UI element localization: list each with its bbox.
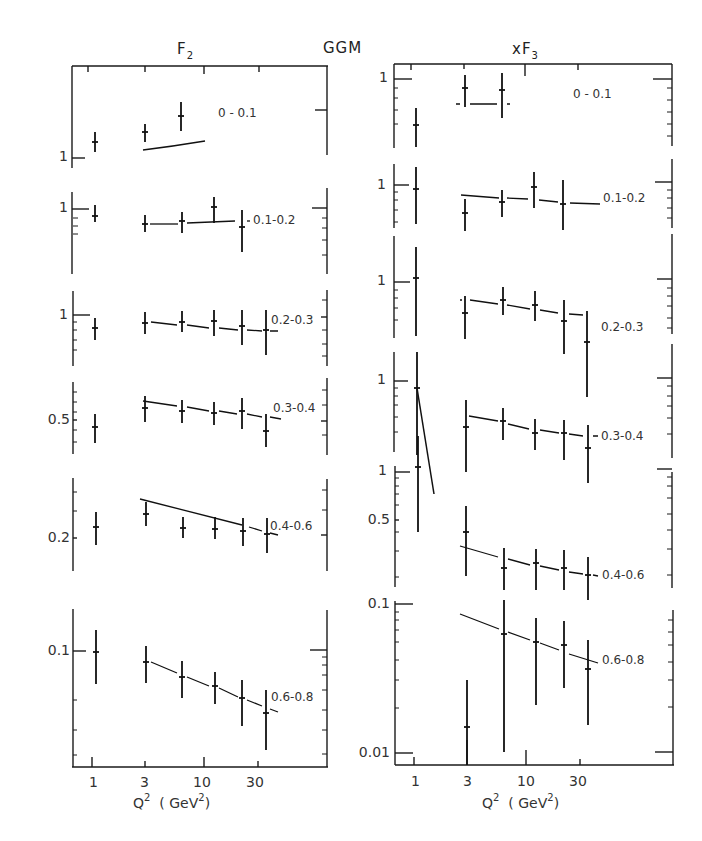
left-xaxis-q-sup: 2 [144,792,150,803]
right-bin-label-3: 0.2-0.3 [601,320,644,334]
right-data-bin-0.1-0.2 [413,167,600,231]
right-xaxis-q-sup: 2 [493,792,499,803]
left-ylabel-bin5: 0.2 [30,529,70,545]
right-xtick-3: 3 [463,773,472,789]
right-xaxis-unit-sup: 2 [547,792,553,803]
right-ylabel-bin2: 1 [374,176,386,192]
left-xaxis-label: Q2 ( GeV2) [133,795,210,811]
left-xaxis-unit-close: ) [205,795,210,811]
left-bin-label-5: 0.4-0.6 [270,519,313,533]
right-data-bin-0.2-0.3 [413,247,590,397]
right-bin-label-2: 0.1-0.2 [603,191,646,205]
left-xtick-1: 1 [89,774,98,790]
right-xtick-10: 10 [517,773,535,789]
right-xtick-30: 30 [569,773,587,789]
right-xaxis-unit: ( GeV [508,795,547,811]
right-bin-label-6: 0.6-0.8 [602,653,645,667]
left-data-bin-0.6-0.8 [93,630,278,750]
left-data-bin-0-0.1 [92,102,205,152]
left-xtick-30: 30 [246,774,264,790]
right-ylabel-bin1: 1 [376,69,388,85]
right-xaxis-label: Q2 ( GeV2) [482,795,559,811]
left-data-bin-0.2-0.3 [92,310,278,355]
left-bin-label-3: 0.2-0.3 [271,313,314,327]
right-bin-label-1: 0 - 0.1 [573,87,612,101]
left-ylabel-bin2: 1 [56,199,68,215]
right-xaxis-unit-close: ) [554,795,559,811]
left-bin-label-6: 0.6-0.8 [271,690,314,704]
left-ylabel-bin4: 0.5 [30,411,70,427]
right-ylabel-bin6a: 0.1 [350,595,390,611]
right-ylabel-bin3: 1 [374,272,386,288]
right-data-bin-0.6-0.8 [460,600,598,765]
right-data-bin-0.3-0.4 [414,352,598,494]
left-bin-label-1: 0 - 0.1 [218,106,257,120]
right-bin-label-4: 0.3-0.4 [601,429,644,443]
right-ylabel-bin6b: 0.01 [348,744,390,760]
left-xaxis-q: Q [133,795,144,811]
left-ylabel-bin1: 1 [56,148,68,164]
left-data-bin-0.1-0.2 [92,197,250,252]
right-ylabel-bin4: 1 [374,371,386,387]
left-ylabel-bin6: 0.1 [30,642,70,658]
right-data-bin-0.4-0.6 [415,436,598,600]
left-xtick-3: 3 [140,774,149,790]
right-xaxis-q: Q [482,795,493,811]
right-ylabel-bin5a: 1 [375,462,387,478]
left-frame [72,66,328,767]
left-xaxis-unit: ( GeV [159,795,198,811]
left-data-bin-0.4-0.6 [93,499,278,553]
right-xtick-1: 1 [411,773,420,789]
left-chart-svg [0,0,702,841]
right-bin-label-5: 0.4-0.6 [602,568,645,582]
right-ylabel-bin5b: 0.5 [350,511,390,527]
left-bin-label-4: 0.3-0.4 [273,401,316,415]
left-xaxis-unit-sup: 2 [198,792,204,803]
left-ylabel-bin3: 1 [56,306,68,322]
right-data-bin-0-0.1 [413,73,510,147]
left-bin-label-2: 0.1-0.2 [253,213,296,227]
left-data-bin-0.3-0.4 [92,396,281,447]
left-xtick-10: 10 [193,774,211,790]
